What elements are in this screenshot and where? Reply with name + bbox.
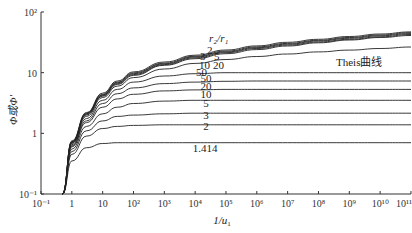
y-tick-label: 10 (27, 68, 37, 79)
curve-50 (63, 73, 412, 194)
curve-2 (63, 125, 412, 194)
x-tick-label: 10⁻¹ (32, 198, 50, 209)
label-upper-2: 2 (207, 44, 213, 56)
curve-5 (63, 100, 412, 194)
label-lower-1414: 1.414 (193, 142, 218, 154)
chart: 10⁻¹11010² 10⁻¹11010²10³10⁴10⁵10⁶10⁷10⁸1… (0, 0, 412, 233)
curve-20 (63, 81, 412, 194)
x-tick-label: 10⁶ (250, 198, 264, 209)
x-tick-label: 10² (127, 198, 140, 209)
label-lower-5: 5 (203, 97, 209, 109)
y-ticks: 10⁻¹11010² (19, 7, 44, 200)
x-tick-label: 10¹⁰ (372, 198, 389, 209)
label-upper-20: 20 (213, 59, 225, 71)
x-tick-label: 1 (69, 198, 74, 209)
y-tick-label: 10² (24, 7, 37, 18)
x-tick-label: 10⁹ (343, 198, 357, 209)
curve-10 (63, 89, 412, 194)
x-tick-label: 10¹¹ (396, 198, 412, 209)
theis-label: Theis曲线 (336, 55, 382, 68)
curve-1-414 (63, 143, 412, 194)
x-tick-label: 10 (98, 198, 108, 209)
x-tick-label: 10⁵ (219, 198, 233, 209)
x-tick-label: 10⁷ (281, 198, 295, 209)
label-lower-2: 2 (203, 120, 209, 132)
legend-title: r₂/r₁ (209, 32, 228, 44)
y-tick-label: 1 (32, 128, 37, 139)
curve-theis- (63, 47, 412, 194)
x-axis-label: 1/u1 (213, 214, 231, 228)
x-tick-label: 10⁸ (312, 198, 326, 209)
x-tick-label: 10⁴ (188, 198, 202, 209)
x-tick-label: 10³ (158, 198, 171, 209)
y-axis-label: Φ或Φ' (7, 94, 19, 125)
curve-3 (63, 113, 412, 194)
